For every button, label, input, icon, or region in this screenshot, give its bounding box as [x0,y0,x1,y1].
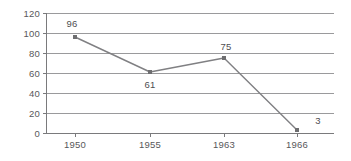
y-tick-label-0: 0 [14,128,40,139]
data-line-series-1 [75,37,297,130]
y-tick-label-100: 100 [14,28,40,39]
y-tick-label-120: 120 [14,8,40,19]
data-label-1966: 3 [307,115,329,126]
x-tick-label-1950: 1950 [55,139,95,150]
x-tick-label-1955: 1955 [130,139,170,150]
y-tick-label-60: 60 [14,68,40,79]
data-label-1950: 96 [61,18,83,29]
x-tick-label-1966: 1966 [277,139,317,150]
y-tick-label-20: 20 [14,108,40,119]
data-marker-1966 [295,128,299,132]
gridlines [46,14,334,114]
x-tick-label-1963: 1963 [204,139,244,150]
data-marker-1955 [148,70,152,74]
data-marker-1950 [73,35,77,39]
y-tick-label-80: 80 [14,48,40,59]
data-label-1955: 61 [139,79,161,90]
data-marker-1963 [222,56,226,60]
data-markers [73,35,299,132]
y-axis-ticks [43,14,46,134]
data-label-1963: 75 [215,41,237,52]
line-chart: 120 100 80 60 40 20 0 1950 1955 1963 196… [0,0,351,161]
y-tick-label-40: 40 [14,88,40,99]
x-axis-ticks [76,134,298,138]
chart-plot-area [0,0,351,161]
